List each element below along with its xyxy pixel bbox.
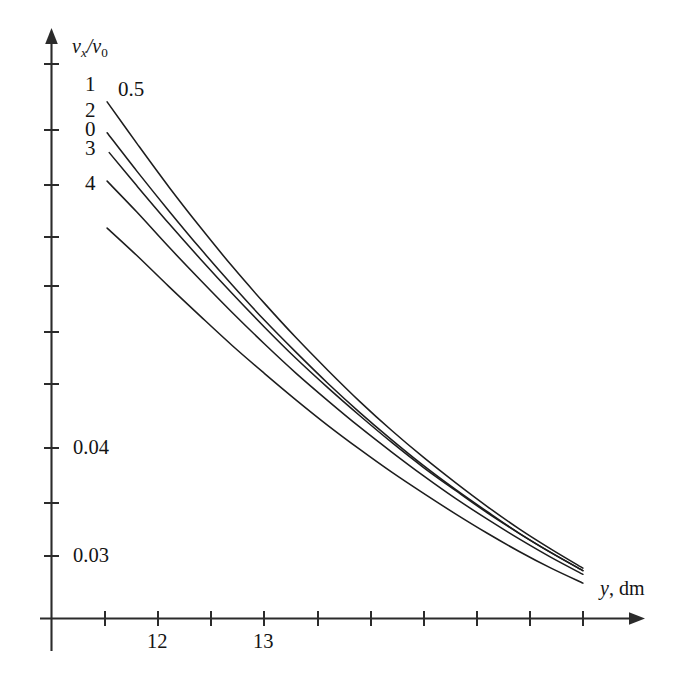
y-tick-label-004: 0.04	[73, 437, 109, 458]
y-axis-title-den-subscript: 0	[101, 45, 108, 60]
curve-label-3: 3	[85, 138, 96, 159]
curve-4	[107, 228, 583, 583]
plot-area	[0, 0, 694, 676]
y-axis-title-denominator: v	[92, 35, 101, 57]
x-axis-arrow-icon	[629, 612, 645, 624]
data-curves	[107, 102, 583, 583]
x-axis-title-unit: , dm	[609, 577, 645, 599]
y-axis-arrow-icon	[45, 28, 58, 44]
x-tick-label-12: 12	[147, 631, 168, 652]
x-axis-title-symbol: y	[600, 577, 609, 599]
y-tick-label-003: 0.03	[73, 545, 109, 566]
figure-container: vx/v0 y, dm 0.04 0.03 12 13 1 2 0 3 4 0.…	[0, 0, 694, 676]
curve-1	[107, 102, 583, 568]
y-axis-title: vx/v0	[72, 36, 108, 59]
x-tick-label-13: 13	[253, 631, 274, 652]
y-axis-title-numerator: v	[72, 35, 81, 57]
curve-label-4: 4	[85, 173, 96, 194]
curve-3	[107, 181, 583, 574]
curve-label-1: 1	[85, 74, 96, 95]
x-axis-title: y, dm	[600, 578, 644, 598]
curve-annotation-05: 0.5	[118, 79, 144, 100]
curve-0	[109, 153, 583, 571]
